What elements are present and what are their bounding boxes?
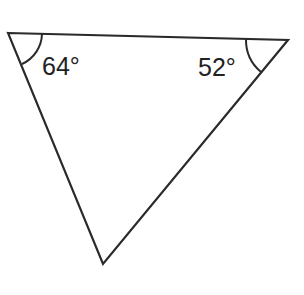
angle-arc-top-left [22, 34, 42, 64]
angle-label-top-left: 64° [42, 52, 80, 80]
triangle-diagram: 64° 52° [0, 0, 304, 295]
angle-arc-top-right [246, 39, 261, 72]
angle-label-top-right: 52° [198, 53, 236, 81]
